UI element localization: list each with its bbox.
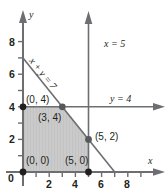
label-x-equals-5: x = 5 — [104, 39, 125, 49]
vertex-label-5-0: (5, 0) — [65, 156, 88, 166]
linear-programming-graph: y x 0 2 4 6 8 2 4 6 8 x + y = 7 x = 5 y … — [0, 0, 168, 195]
vertex-label-5-2: (5, 2) — [95, 132, 118, 142]
origin-tick-label: 0 — [8, 173, 14, 184]
x-tick-label-4: 4 — [72, 179, 78, 190]
arrowhead-y-equals-4 — [153, 103, 165, 111]
x-tick-label-2: 2 — [46, 179, 52, 190]
y-axis-label: y — [29, 10, 33, 20]
x-axis-label: x — [148, 156, 152, 166]
label-y-equals-4: y = 4 — [110, 94, 131, 104]
x-tick-label-6: 6 — [98, 179, 104, 190]
vertex-dot-5-0 — [85, 169, 92, 176]
arrowhead-x-axis — [153, 168, 165, 176]
vertex-dot-5-2 — [85, 136, 92, 143]
x-tick-label-8: 8 — [124, 179, 130, 190]
vertex-label-0-0: (0, 0) — [26, 156, 49, 166]
arrowhead-y-axis — [19, 10, 27, 23]
y-tick-label-8: 8 — [9, 37, 15, 48]
y-tick-label-4: 4 — [9, 102, 15, 113]
arrowhead-x-equals-5 — [85, 11, 93, 24]
vertex-dot-0-0 — [20, 169, 27, 176]
vertex-label-3-4: (3, 4) — [38, 113, 61, 123]
vertex-label-0-4: (0, 4) — [26, 95, 49, 105]
vertex-dot-3-4 — [59, 103, 66, 110]
y-tick-label-2: 2 — [9, 134, 15, 145]
y-tick-label-6: 6 — [9, 69, 15, 80]
